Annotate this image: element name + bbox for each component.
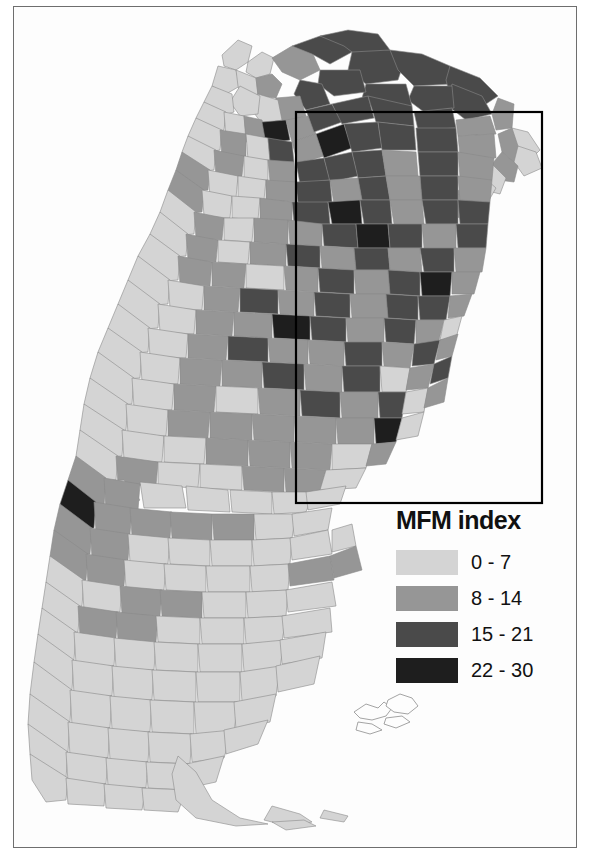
map-legend: MFM index 0 - 7 8 - 14 15 - 21 22 - 30 [396,505,571,693]
legend-swatch [396,586,458,611]
argentina-choropleth-map [0,0,597,868]
department-polygons [28,30,542,830]
legend-row: 15 - 21 [396,621,571,648]
legend-swatch [396,622,458,647]
legend-row: 22 - 30 [396,657,571,684]
legend-label: 22 - 30 [471,659,533,682]
legend-row: 0 - 7 [396,549,571,576]
legend-title: MFM index [396,505,571,535]
legend-label: 8 - 14 [471,587,522,610]
falkland-islands [354,694,418,734]
legend-label: 0 - 7 [471,551,511,574]
legend-swatch [396,550,458,575]
legend-label: 15 - 21 [471,623,533,646]
legend-row: 8 - 14 [396,585,571,612]
map-figure: MFM index 0 - 7 8 - 14 15 - 21 22 - 30 [0,0,597,868]
legend-swatch [396,658,458,683]
